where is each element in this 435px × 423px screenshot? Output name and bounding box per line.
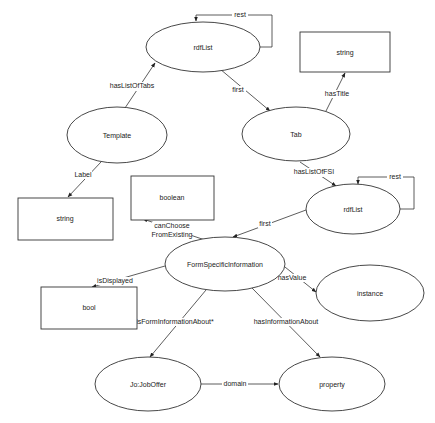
edge-label-first-tab: first [232,86,243,93]
node-instance: instance [316,265,424,321]
edge-label-has-value: hasValue [278,274,307,281]
edge-has-list-of-tabs: hasListOfTabs [108,63,156,108]
node-label-rdflist-top: rdfList [193,44,212,51]
node-string-label: string [18,198,113,240]
node-label-instance: instance [357,290,383,297]
edge-has-list-of-fsi: hasListOfFSI [294,162,336,186]
node-template: Template [67,107,167,163]
edge-label-rest-fsi: rest [389,173,401,180]
edge-label-has-list-of-fsi: hasListOfFSI [294,168,335,175]
edge-label-has-information-about: hasInformationAbout [254,318,319,325]
edge-label-is-form-information-about: isFormInformationAbout* [136,318,214,325]
edge-label-can-choose-2: FromExisting [152,231,193,239]
node-bool: bool [41,287,137,329]
node-label-property: property [319,381,345,389]
node-rdflist-fsi: rdfList [306,184,400,234]
edge-first-tab: first [220,69,270,111]
node-form-specific-information: FormSpecificInformation [165,237,285,291]
edge-has-title: hasTitle [324,73,350,111]
node-property: property [279,357,385,411]
node-rdflist-top: rdfList [146,22,260,72]
node-label-tab: Tab [290,131,301,138]
edge-label-first-fsi: first [259,220,270,227]
edge-label: Label [68,162,101,197]
node-label-rdflist-fsi: rdfList [343,206,362,213]
edge-first-fsi: first [233,210,306,237]
node-label-boolean: boolean [160,194,185,201]
node-label-string-label: string [56,215,73,223]
edge-label-has-title: hasTitle [325,90,349,97]
edge-has-information-about: hasInformationAbout [252,288,320,357]
edge-is-form-information-about: isFormInformationAbout* [136,290,214,357]
edge-can-choose-from-existing: canChoose FromExisting [143,219,205,240]
edge-label-domain: domain [224,380,247,387]
node-job-offer: Jo:JobOffer [95,357,201,411]
node-label-template: Template [103,132,132,140]
node-label-form-specific-information: FormSpecificInformation [187,261,263,269]
node-tab: Tab [242,107,350,161]
edge-label-has-list-of-tabs: hasListOfTabs [110,82,155,89]
node-string-title: string [300,32,390,72]
edge-label-can-choose-1: canChoose [154,222,190,229]
node-boolean: boolean [131,176,214,220]
edge-label-label: Label [74,171,92,178]
node-label-string-title: string [336,49,353,57]
edge-label-rest-top: rest [234,11,246,18]
rdf-graph-diagram: rest hasListOfTabs first hasTitle Label … [0,0,435,423]
node-label-job-offer: Jo:JobOffer [130,381,167,388]
edge-is-displayed: isDisplayed [92,266,165,287]
edge-domain: domain [201,380,278,388]
node-label-bool: bool [82,304,96,311]
edge-label-is-displayed: isDisplayed [97,277,133,285]
